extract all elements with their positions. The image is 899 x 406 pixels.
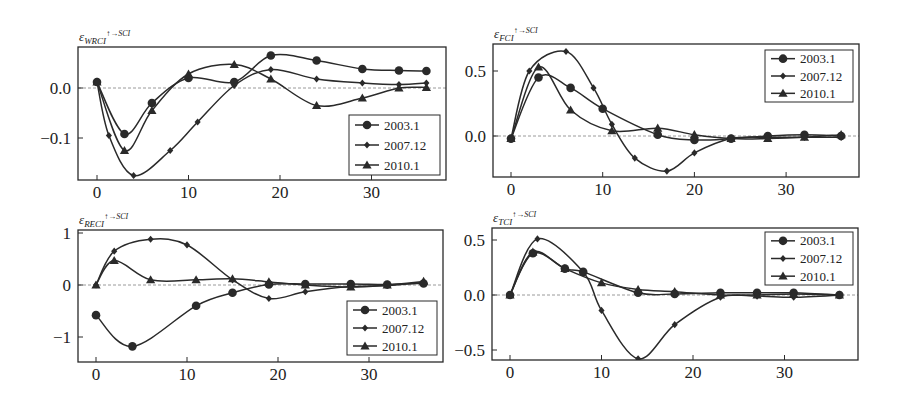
y-tick-label: −1 [53,328,71,347]
x-tick-label: 30 [363,183,380,202]
diamond-marker-icon [131,172,137,179]
y-tick-label: −0.1 [40,129,71,148]
diamond-marker-icon [266,295,272,302]
legend-label: 2003.1 [800,233,836,248]
circle-marker-icon [779,54,788,63]
y-tick-label: 0.5 [464,231,485,250]
x-tick-label: 10 [179,365,196,384]
panel-title-subscript: FCI [498,33,515,43]
x-tick-label: 20 [686,180,703,199]
chart-panel-wrci: 01020300.0−0.1εWRCI↑→SCI2003.12007.12201… [40,29,446,202]
legend-label: 2010.1 [382,339,418,354]
panel-title-superscript: ↑→SCI [512,210,536,219]
diamond-marker-icon [184,241,190,248]
y-tick-label: −0.5 [454,341,485,360]
figure-4-panel-chart: 01020300.0−0.1εWRCI↑→SCI2003.12007.12201… [0,0,899,406]
y-tick-label: 0.0 [464,286,485,305]
legend-label: 2007.12 [800,69,842,84]
circle-marker-icon [566,84,575,93]
x-tick-label: 0 [507,180,516,199]
circle-marker-icon [422,67,431,76]
panel-title: εWRCI↑→SCI [79,29,130,46]
series-line-2010-1 [96,261,424,288]
circle-marker-icon [653,130,662,139]
legend: 2003.12007.122010.1 [347,301,437,355]
panel-title: εRECI↑→SCI [79,212,128,229]
circle-marker-icon [192,302,201,311]
legend-label: 2007.12 [800,251,842,266]
circle-marker-icon [534,73,543,82]
circle-marker-icon [267,51,276,60]
legend-label: 2003.1 [382,303,418,318]
y-tick-label: 0.0 [465,127,486,146]
circle-marker-icon [92,311,101,320]
panel-title: εTCI↑→SCI [493,210,536,227]
legend: 2003.12007.122010.1 [349,115,440,175]
diamond-marker-icon [664,168,670,175]
triangle-marker-icon [266,74,275,82]
diamond-marker-icon [148,236,154,243]
circle-marker-icon [361,306,370,315]
diamond-marker-icon [635,355,641,362]
circle-marker-icon [120,130,129,139]
circle-marker-icon [779,237,788,246]
x-tick-label: 20 [272,183,289,202]
triangle-marker-icon [184,69,193,77]
legend-label: 2010.1 [800,269,836,284]
x-tick-label: 0 [93,183,102,202]
legend-label: 2003.1 [384,118,420,133]
panel-title-superscript: ↑→SCI [106,29,130,38]
y-tick-label: 0.0 [50,79,71,98]
chart-panel-reci: 010203010−1εRECI↑→SCI2003.12007.122010.1 [53,212,443,384]
legend-label: 2007.12 [384,138,426,153]
circle-marker-icon [395,66,404,75]
panel-title: εFCI↑→SCI [494,26,538,43]
panel-title-superscript: ↑→SCI [104,212,128,221]
x-tick-label: 20 [685,363,702,382]
x-tick-label: 30 [361,365,378,384]
circle-marker-icon [228,289,237,298]
x-tick-label: 10 [180,183,197,202]
legend-label: 2010.1 [384,158,420,173]
panel-title-subscript: TCI [498,217,513,227]
circle-marker-icon [312,56,321,65]
x-tick-label: 10 [593,363,610,382]
diamond-marker-icon [691,149,697,156]
triangle-marker-icon [110,256,119,264]
legend-label: 2003.1 [800,51,836,66]
diamond-marker-icon [314,75,320,82]
legend-label: 2010.1 [800,86,836,101]
x-tick-label: 0 [92,365,101,384]
y-tick-label: 0.5 [465,62,486,81]
diamond-marker-icon [268,66,274,73]
triangle-marker-icon [91,280,100,288]
series-line-2007-12 [96,239,424,299]
panel-title-subscript: RECI [83,219,105,229]
circle-marker-icon [363,121,372,130]
panel-title-subscript: WRCI [84,36,107,46]
x-tick-label: 0 [506,363,515,382]
panel-title-superscript: ↑→SCI [514,26,538,35]
diamond-marker-icon [563,48,569,55]
circle-marker-icon [128,342,137,351]
x-tick-label: 30 [776,363,793,382]
diamond-marker-icon [534,235,540,242]
chart-panel-tci: 01020300.50.0−0.5εTCI↑→SCI2003.12007.122… [454,210,858,382]
chart-canvas: 01020300.0−0.1εWRCI↑→SCI2003.12007.12201… [0,0,899,406]
circle-marker-icon [358,65,367,74]
y-tick-label: 0 [63,276,72,295]
chart-panel-fci: 01020300.50.0εFCI↑→SCI2003.12007.122010.… [465,26,859,199]
legend: 2003.12007.122010.1 [765,50,853,102]
x-tick-label: 10 [594,180,611,199]
x-tick-label: 30 [778,180,795,199]
legend-label: 2007.12 [382,321,424,336]
legend: 2003.12007.122010.1 [765,232,853,285]
x-tick-label: 20 [270,365,287,384]
diamond-marker-icon [302,288,308,295]
diamond-marker-icon [359,79,365,86]
y-tick-label: 1 [63,224,72,243]
diamond-marker-icon [106,132,112,139]
